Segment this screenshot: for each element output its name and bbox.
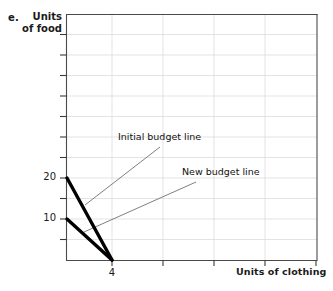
y-tick-label-20: 20: [30, 171, 56, 182]
annotation-new-budget-line: New budget line: [182, 166, 260, 177]
annotation-initial-budget-line: Initial budget line: [118, 131, 201, 142]
y-axis-title-line1: Units: [0, 11, 62, 23]
leader-line-initial: [85, 147, 160, 205]
x-axis-title: Units of clothing: [236, 266, 326, 277]
plot-area: [0, 0, 333, 291]
y-axis-title: Units of food: [0, 11, 62, 34]
y-axis-ticks: [60, 35, 67, 240]
y-axis-title-line2: of food: [0, 23, 62, 35]
budget-line-figure: e. Units of food: [0, 0, 333, 291]
y-tick-label-10: 10: [30, 212, 56, 223]
x-tick-label-4: 4: [106, 267, 118, 278]
leader-line-new: [84, 182, 196, 232]
